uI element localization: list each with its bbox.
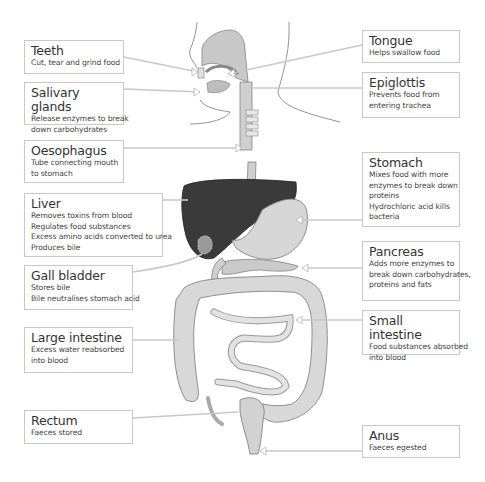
label-stomach: Stomach Mixes food with more enzymes to …: [362, 152, 460, 227]
label-pancreas: Pancreas Adds more enzymes to break down…: [362, 241, 460, 301]
label-gall-desc-2: Bile neutralises stomach acid: [31, 294, 127, 305]
oesophagus-upper: [240, 82, 252, 150]
label-pancreas-title: Pancreas: [369, 245, 454, 259]
label-large-desc-2: into blood: [31, 356, 127, 367]
label-pancreas-desc-1: Adds more enzymes to: [369, 259, 454, 270]
gall-bladder-shape: [198, 236, 212, 254]
label-rectum-title: Rectum: [31, 414, 127, 428]
label-rectum-desc: Faeces stored: [31, 428, 127, 439]
small-intestine-shape: [214, 312, 290, 392]
label-liver-desc-1: Removes toxins from blood: [31, 211, 157, 222]
label-tongue-title: Tongue: [369, 34, 454, 48]
label-anus-desc: Faeces egested: [369, 443, 454, 454]
label-tongue: Tongue Helps swallow food: [362, 30, 460, 63]
label-liver-title: Liver: [31, 197, 157, 211]
label-large-title: Large intestine: [31, 331, 127, 345]
label-stomach-desc-2: enzymes to break down: [369, 181, 454, 192]
rectum-shape: [240, 398, 264, 454]
label-stomach-desc-1: Mixes food with more: [369, 170, 454, 181]
pancreas-shape: [222, 259, 298, 274]
label-oesophagus-title: Oesophagus: [31, 144, 118, 158]
tongue-shape: [207, 80, 230, 92]
label-epiglottis-desc-1: Prevents food from: [369, 90, 454, 101]
label-small-title: Small intestine: [369, 314, 454, 342]
label-liver-desc-2: Regulates food substances: [31, 222, 157, 233]
label-oesophagus-desc-1: Tube connecting mouth: [31, 158, 118, 169]
label-oesophagus-desc-2: to stomach: [31, 169, 118, 180]
label-salivary-desc-2: down carbohydrates: [31, 125, 118, 136]
teeth-shape: [198, 68, 204, 78]
label-small-desc-2: into blood: [369, 353, 454, 364]
label-epiglottis-title: Epiglottis: [369, 76, 454, 90]
label-large-desc-1: Excess water reabsorbed: [31, 345, 127, 356]
label-liver-desc-4: Produces bile: [31, 243, 157, 254]
label-salivary-title: Salivary glands: [31, 86, 118, 114]
label-teeth: Teeth Cut, tear and grind food: [24, 40, 124, 74]
label-epiglottis-desc-2: entering trachea: [369, 101, 454, 112]
label-oesophagus: Oesophagus Tube connecting mouth to stom…: [24, 140, 124, 183]
label-pancreas-desc-2: break down carbohydrates,: [369, 270, 454, 281]
label-gall-desc-1: Stores bile: [31, 283, 127, 294]
label-liver: Liver Removes toxins from blood Regulate…: [24, 193, 163, 257]
label-anus-title: Anus: [369, 429, 454, 443]
label-pancreas-desc-3: proteins and fats: [369, 280, 454, 291]
label-gall-title: Gall bladder: [31, 269, 127, 283]
nasal-cavity: [202, 30, 248, 82]
label-rectum: Rectum Faeces stored: [24, 410, 133, 444]
label-teeth-title: Teeth: [31, 44, 118, 58]
label-large-intestine: Large intestine Excess water reabsorbed …: [24, 327, 133, 373]
appendix-shape: [208, 398, 222, 424]
label-small-desc-1: Food substances absorbed: [369, 342, 454, 353]
label-anus: Anus Faeces egested: [362, 425, 460, 458]
label-tongue-desc: Helps swallow food: [369, 48, 454, 59]
label-stomach-desc-4: Hydrochloric acid kills: [369, 202, 454, 213]
label-stomach-desc-5: bacteria: [369, 212, 454, 223]
label-salivary-glands: Salivary glands Release enzymes to break…: [24, 82, 124, 125]
label-salivary-desc-1: Release enzymes to break: [31, 114, 118, 125]
label-small-intestine: Small intestine Food substances absorbed…: [362, 310, 460, 355]
label-epiglottis: Epiglottis Prevents food from entering t…: [362, 72, 460, 118]
label-liver-desc-3: Excess amino acids converted to urea: [31, 232, 157, 243]
label-stomach-desc-3: proteins: [369, 191, 454, 202]
label-stomach-title: Stomach: [369, 156, 454, 170]
label-teeth-desc: Cut, tear and grind food: [31, 58, 118, 69]
label-gall-bladder: Gall bladder Stores bile Bile neutralise…: [24, 265, 133, 310]
